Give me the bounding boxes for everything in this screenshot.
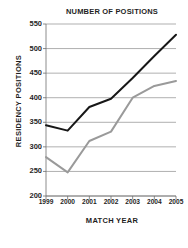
x-axis-tick-label: 2005	[165, 199, 187, 206]
x-axis-tick-label: 2003	[122, 199, 144, 206]
x-axis-tick-labels: 1999200020012002200320042005	[0, 199, 188, 211]
x-axis-tick-label: 1999	[35, 199, 57, 206]
x-axis-title: MATCH YEAR	[46, 216, 178, 225]
series-line-positions-offered	[46, 35, 176, 131]
x-axis-tick-label: 2004	[143, 199, 165, 206]
x-axis-tick-label: 2000	[57, 199, 79, 206]
x-axis-tick-label: 2002	[100, 199, 122, 206]
chart-figure: NUMBER OF POSITIONS RESIDENCY POSITIONS …	[0, 0, 188, 248]
x-axis-tick-label: 2001	[78, 199, 100, 206]
series-line-positions-filled	[46, 81, 176, 172]
